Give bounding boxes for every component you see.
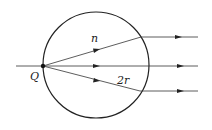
- ray-diagram: Q n 2r: [0, 0, 212, 130]
- point-q: [41, 64, 45, 68]
- label-q: Q: [30, 70, 39, 83]
- label-2r: 2r: [116, 74, 130, 87]
- label-n: n: [91, 32, 98, 45]
- arrow-icon: [177, 64, 184, 68]
- arrow-icon: [177, 89, 184, 93]
- arrow-icon: [93, 64, 100, 68]
- arrow-icon: [93, 49, 100, 54]
- arrow-icon: [175, 35, 182, 39]
